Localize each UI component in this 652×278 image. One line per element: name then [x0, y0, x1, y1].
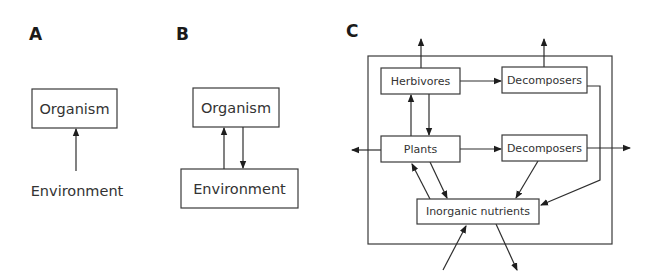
herbivores-text: Herbivores: [391, 75, 451, 88]
panel-b: B Organism Environment: [176, 24, 298, 208]
decomposers-top-node: Decomposers: [502, 67, 587, 93]
panel-a-organism-text: Organism: [39, 101, 109, 117]
decomposers-top-text: Decomposers: [507, 74, 582, 87]
panel-a-label: A: [29, 24, 43, 44]
panel-a: A Organism Environment: [29, 24, 124, 199]
arrow-plants-to-inorganic: [430, 162, 447, 198]
arrow-outside-to-inorganic: [443, 226, 466, 270]
panel-a-environment-text: Environment: [31, 183, 124, 199]
decomposers-mid-node: Decomposers: [502, 135, 587, 161]
panel-b-organism-text: Organism: [201, 100, 271, 116]
decomposers-mid-text: Decomposers: [507, 142, 582, 155]
ecosystem-diagram: A Organism Environment B Organism Enviro…: [0, 0, 652, 278]
panel-a-organism-node: Organism: [32, 89, 117, 128]
inorganic-nutrients-text: Inorganic nutrients: [426, 205, 530, 218]
arrow-decomposers-mid-to-inorganic: [516, 161, 538, 198]
panel-c-label: C: [346, 21, 358, 41]
panel-b-label: B: [176, 24, 189, 44]
arrow-inorganic-to-outside: [496, 224, 517, 270]
panel-b-environment-node: Environment: [181, 169, 298, 208]
plants-node: Plants: [381, 136, 460, 162]
panel-b-environment-text: Environment: [193, 181, 286, 197]
plants-text: Plants: [404, 143, 438, 156]
inorganic-nutrients-node: Inorganic nutrients: [417, 199, 539, 224]
herbivores-node: Herbivores: [381, 68, 460, 94]
panel-b-organism-node: Organism: [193, 88, 279, 127]
panel-c: C Herbivores Decomposers Plants: [346, 21, 630, 270]
arrow-inorganic-to-plants: [412, 164, 430, 199]
